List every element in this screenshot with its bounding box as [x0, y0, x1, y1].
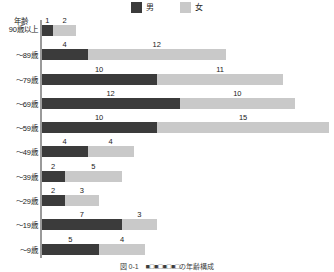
bar-value-female: 3: [137, 210, 141, 219]
bar-segment-female: 15: [157, 122, 330, 133]
bar-row-label: ～19歳: [0, 221, 38, 230]
bar-row-label: ～79歳: [0, 76, 38, 85]
bar-row-label: ～49歳: [0, 148, 38, 157]
bar-value-female: 4: [109, 137, 113, 146]
bar-value-female: 5: [91, 162, 95, 171]
stacked-bar: 25: [42, 171, 123, 182]
stacked-bar: 23: [42, 195, 100, 206]
stacked-bar: 1011: [42, 74, 284, 85]
bar-segment-male: 12: [42, 98, 180, 109]
bar-value-male: 2: [51, 162, 55, 171]
stacked-bar: 54: [42, 244, 146, 255]
legend-entry-male: 男: [131, 2, 154, 13]
bar-value-male: 7: [80, 210, 84, 219]
bar-segment-male: 7: [42, 219, 123, 230]
bar-segment-female: 4: [99, 244, 145, 255]
stacked-bar: 412: [42, 49, 226, 60]
bar-row-label: ～69歳: [0, 100, 38, 109]
bar-segment-male: 2: [42, 195, 65, 206]
bar-value-female: 3: [80, 186, 84, 195]
stacked-bar: 1015: [42, 122, 330, 133]
stacked-bar: 1210: [42, 98, 295, 109]
bar-segment-female: 5: [65, 171, 123, 182]
bar-row: 90歳以上12: [0, 14, 334, 38]
bar-value-male: 10: [95, 113, 103, 122]
bar-track: 23: [42, 184, 334, 208]
bar-rows: 90歳以上12～89歳412～79歳1011～69歳1210～59歳1015～4…: [0, 14, 334, 257]
bar-segment-female: 2: [53, 25, 76, 36]
bar-value-female: 11: [216, 65, 224, 74]
bar-row-label: ～9歳: [0, 246, 38, 255]
bar-segment-male: 10: [42, 122, 157, 133]
chart-legend: 男 女: [0, 1, 334, 14]
bar-track: 12: [42, 14, 334, 38]
bar-segment-male: 1: [42, 25, 54, 36]
stacked-bar: 12: [42, 25, 77, 36]
bar-value-female: 2: [62, 16, 66, 25]
legend-entry-female: 女: [180, 2, 203, 13]
bar-row: ～49歳44: [0, 135, 334, 159]
bar-segment-male: 2: [42, 171, 65, 182]
stacked-bar: 44: [42, 146, 134, 157]
bar-value-female: 15: [239, 113, 247, 122]
bar-segment-female: 3: [122, 219, 157, 230]
bar-segment-female: 4: [88, 146, 134, 157]
bar-segment-male: 10: [42, 74, 157, 85]
bar-row-label: ～29歳: [0, 197, 38, 206]
bar-segment-female: 3: [65, 195, 100, 206]
bar-row: ～39歳25: [0, 160, 334, 184]
bar-track: 54: [42, 233, 334, 257]
legend-label-male: 男: [146, 3, 154, 12]
plot-area: 90歳以上12～89歳412～79歳1011～69歳1210～59歳1015～4…: [0, 14, 334, 258]
bar-segment-male: 5: [42, 244, 100, 255]
bar-value-male: 5: [68, 235, 72, 244]
bar-value-male: 1: [45, 16, 49, 25]
bar-track: 1210: [42, 87, 334, 111]
bar-value-male: 4: [62, 40, 66, 49]
bar-row-label: ～59歳: [0, 124, 38, 133]
bar-row: ～29歳23: [0, 184, 334, 208]
bar-row: ～19歳73: [0, 208, 334, 232]
bar-segment-female: 11: [157, 74, 284, 85]
bar-value-female: 12: [153, 40, 161, 49]
legend-swatch-male: [131, 2, 142, 13]
legend-label-female: 女: [195, 3, 203, 12]
bar-track: 44: [42, 135, 334, 159]
bar-row: ～79歳1011: [0, 63, 334, 87]
bar-row: ～9歳54: [0, 233, 334, 257]
bar-value-male: 4: [62, 137, 66, 146]
bar-row-label: ～39歳: [0, 173, 38, 182]
chart-figure: 男 女 年齢 90歳以上12～89歳412～79歳1011～69歳1210～59…: [0, 0, 334, 272]
bar-value-male: 12: [106, 89, 114, 98]
bar-row-label: ～89歳: [0, 51, 38, 60]
bar-value-female: 10: [233, 89, 241, 98]
bar-track: 73: [42, 208, 334, 232]
bar-track: 25: [42, 160, 334, 184]
figure-caption: 図 0-1 ■□■□■□■□の年齢構成: [0, 262, 334, 271]
bar-segment-male: 4: [42, 49, 88, 60]
bar-track: 412: [42, 38, 334, 62]
bar-segment-female: 10: [180, 98, 295, 109]
bar-row-label: 90歳以上: [0, 25, 38, 35]
bar-value-female: 4: [120, 235, 124, 244]
bar-row: ～89歳412: [0, 38, 334, 62]
bar-segment-male: 4: [42, 146, 88, 157]
bar-segment-female: 12: [88, 49, 226, 60]
bar-row: ～69歳1210: [0, 87, 334, 111]
bar-value-male: 10: [95, 65, 103, 74]
bar-row: ～59歳1015: [0, 111, 334, 135]
bar-track: 1015: [42, 111, 334, 135]
bar-track: 1011: [42, 63, 334, 87]
stacked-bar: 73: [42, 219, 157, 230]
bar-value-male: 2: [51, 186, 55, 195]
legend-swatch-female: [180, 2, 191, 13]
